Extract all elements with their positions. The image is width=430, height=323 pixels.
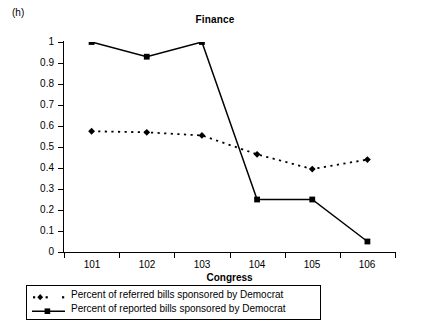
y-tick-label: 0.3 xyxy=(8,184,54,194)
x-tick-label: 104 xyxy=(227,259,287,271)
y-tick-mark xyxy=(58,231,63,232)
y-tick-mark xyxy=(58,126,63,127)
diamond-marker xyxy=(309,166,316,173)
legend-item-referred: Percent of referred bills sponsored by D… xyxy=(31,288,316,302)
x-tick-mark xyxy=(395,253,396,258)
y-tick-mark xyxy=(58,147,63,148)
x-tick-label: 101 xyxy=(62,259,122,271)
y-tick-label: 0.5 xyxy=(8,142,54,152)
legend-item-reported: Percent of reported bills sponsored by D… xyxy=(31,302,316,316)
chart-page: (h) Finance 10.90.80.70.60.50.40.30.20.1… xyxy=(0,0,430,323)
diamond-marker xyxy=(143,129,150,136)
y-tick-label: 0.9 xyxy=(8,58,54,68)
x-axis-title: Congress xyxy=(64,272,395,284)
legend-label-reported: Percent of reported bills sponsored by D… xyxy=(71,303,286,315)
diamond-marker xyxy=(88,128,95,135)
y-tick-label: 0.6 xyxy=(8,121,54,131)
x-tick-label: 105 xyxy=(282,259,342,271)
y-tick-label: 0.7 xyxy=(8,100,54,110)
series-line-1 xyxy=(92,131,368,169)
y-tick-label: 0 xyxy=(8,247,54,257)
square-marker xyxy=(365,239,371,245)
y-tick-mark xyxy=(58,42,63,43)
plot-area xyxy=(64,42,395,252)
y-tick-label: 0.2 xyxy=(8,205,54,215)
diamond-marker-key xyxy=(31,289,67,301)
legend-label-referred: Percent of referred bills sponsored by D… xyxy=(71,289,283,301)
diamond-marker xyxy=(254,151,261,158)
y-tick-mark xyxy=(58,105,63,106)
diamond-marker xyxy=(364,156,371,163)
y-tick-label: 1 xyxy=(8,37,54,47)
series-line-2 xyxy=(92,42,368,242)
y-tick-mark xyxy=(58,252,63,253)
y-tick-label: 0.1 xyxy=(8,226,54,236)
y-tick-label: 0.4 xyxy=(8,163,54,173)
square-marker xyxy=(144,54,150,60)
square-marker xyxy=(254,197,260,203)
y-tick-label: 0.8 xyxy=(8,79,54,89)
x-tick-label: 106 xyxy=(337,259,397,271)
square-marker xyxy=(199,42,205,45)
y-tick-mark xyxy=(58,168,63,169)
y-tick-mark xyxy=(58,84,63,85)
x-tick-label: 103 xyxy=(172,259,232,271)
square-marker xyxy=(89,42,95,45)
square-marker-key xyxy=(31,303,67,315)
y-tick-mark xyxy=(58,63,63,64)
diamond-marker xyxy=(199,132,206,139)
series-svg xyxy=(64,42,395,254)
y-tick-mark xyxy=(58,210,63,211)
chart-title: Finance xyxy=(0,14,430,26)
y-tick-mark xyxy=(58,189,63,190)
x-tick-label: 102 xyxy=(117,259,177,271)
square-marker xyxy=(309,197,315,203)
legend: Percent of referred bills sponsored by D… xyxy=(26,285,321,320)
